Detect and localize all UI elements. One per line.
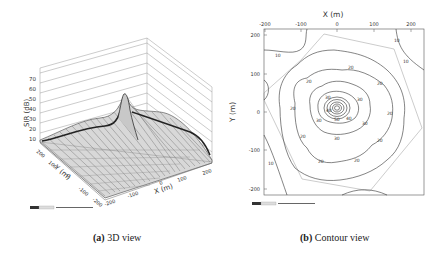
y-tick: 200 [35, 148, 46, 159]
caption-3d-view: (a) 3D view [93, 232, 141, 243]
caption-contour-view: (b) Contour view [300, 232, 369, 243]
legend-strip [252, 202, 315, 205]
contour-label: 10 [268, 161, 274, 166]
y-tick: 200 [250, 32, 260, 38]
contour-label: 20 [354, 158, 360, 163]
z-tick: 60 [29, 86, 36, 92]
caption-tag: (b) [300, 232, 312, 243]
contour-label: 30 [357, 97, 363, 102]
x-tick: 100 [176, 174, 187, 183]
x-tick: -200 [259, 21, 270, 27]
contour-label: 50 [334, 117, 340, 122]
contour-label: 20 [306, 79, 312, 84]
y-tick: -100 [77, 185, 90, 197]
x-tick: 0 [335, 21, 338, 27]
contour-label: 40 [346, 116, 352, 121]
x-tick: -100 [295, 21, 306, 27]
x-tick: -100 [126, 190, 139, 199]
contour-panel: X (m) Y (m) -200 -100 0 100 200 200 100 … [222, 0, 445, 222]
contour-label: 20 [300, 134, 306, 139]
contour-label: 10 [403, 59, 409, 64]
legend-strip [30, 206, 93, 209]
caption-tag: (a) [93, 232, 105, 243]
x-tick: 100 [369, 21, 379, 27]
x-tick: -200 [103, 198, 116, 207]
caption-text: 3D view [107, 232, 141, 243]
y-axis-label: Y (m) [228, 102, 237, 123]
contour-label: 20 [387, 111, 393, 116]
contour-label: 20 [348, 65, 354, 70]
contour-label: 20 [290, 106, 296, 111]
y-tick: -200 [249, 186, 260, 192]
contour-label: 30 [334, 136, 340, 141]
x-axis-ticks: -200 -100 0 100 200 [259, 21, 415, 27]
plot-frame [264, 29, 424, 195]
caption-text: Contour view [315, 232, 370, 243]
z-tick: 10 [29, 136, 36, 142]
z-axis-label: SIR (dB) [23, 98, 31, 127]
y-tick: -200 [91, 196, 104, 208]
x-axis-label: X (m) [323, 10, 344, 19]
contour-label: 20 [377, 138, 383, 143]
contour-label: 30 [362, 121, 368, 126]
contour-label: 30 [325, 95, 331, 100]
contour-label: 30 [316, 118, 322, 123]
y-tick: -100 [249, 147, 260, 153]
surface-mesh [40, 94, 212, 198]
y-tick: 0 [257, 109, 260, 115]
contour-label: 40 [326, 108, 332, 113]
surface-3d-plot: 10 20 30 40 50 60 70 SIR (dB) 200 100 0 … [0, 0, 222, 222]
y-tick: 100 [250, 71, 260, 77]
z-tick: 70 [29, 76, 36, 82]
x-tick: 200 [406, 21, 416, 27]
contour-label: 20 [377, 81, 383, 86]
y-axis-ticks: 200 100 0 -100 -200 [249, 32, 260, 192]
surface-3d-panel: 10 20 30 40 50 60 70 SIR (dB) 200 100 0 … [0, 0, 222, 222]
x-axis-label: X (m) [153, 182, 174, 196]
x-tick: 200 [201, 167, 212, 176]
contour-label: 10 [275, 53, 281, 58]
contour-label: 10 [394, 38, 400, 43]
contour-label: 20 [318, 159, 324, 164]
contour-plot: X (m) Y (m) -200 -100 0 100 200 200 100 … [222, 0, 445, 222]
